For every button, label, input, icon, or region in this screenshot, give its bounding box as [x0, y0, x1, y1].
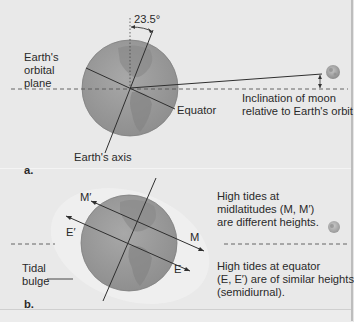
panel-a-graphics: [11, 18, 348, 153]
equator-note-line1: High tides at equator: [217, 260, 320, 273]
midlatitude-note-line1: High tides at: [217, 190, 279, 203]
tidal-bulge-label-line1: Tidal: [22, 262, 46, 275]
tilt-angle-label: 23.5°: [134, 13, 160, 26]
panel-a-letter: a.: [24, 164, 33, 177]
midlatitude-note-line2: midlatitudes (M, M′): [217, 203, 314, 216]
inclination-label-line1: Inclination of moon: [242, 92, 336, 105]
equator-note-line3: (semidiurnal).: [217, 286, 285, 299]
orbital-plane-label-line1: Earth's: [24, 51, 58, 64]
equator-note-line2: (E, E′) are of similar heights: [217, 273, 354, 286]
moon-a: [326, 65, 340, 79]
inclination-label-line2: relative to Earth's orbit: [242, 105, 353, 118]
m-prime-label: M′: [80, 191, 91, 204]
panel-b-graphics: [11, 167, 348, 321]
panel-b-letter: b.: [24, 298, 34, 311]
m-label: M: [190, 231, 199, 244]
e-prime-label: E′: [66, 226, 76, 239]
e-label: E: [174, 263, 181, 276]
moon-b: [328, 221, 340, 233]
orbital-plane-label-line2: orbital: [24, 64, 54, 77]
midlatitude-note-line3: are different heights.: [217, 216, 319, 229]
tidal-bulge-label-line2: bulge: [22, 275, 49, 288]
orbital-plane-label-line3: plane: [24, 77, 51, 90]
equator-label: Equator: [177, 104, 216, 117]
earth-axis-label: Earth's axis: [74, 151, 131, 164]
